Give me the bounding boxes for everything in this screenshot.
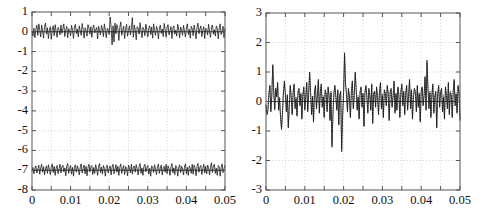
y-tick-label: -1 [252,124,262,137]
x-tick-label: 0 [12,194,52,207]
x-tick-label: 0 [246,194,286,207]
chart-panel-right: 3210-1-2-300.010.020.030.040.05 [241,0,483,219]
x-tick-label: 0.05 [205,194,245,207]
y-tick-label: -2 [252,154,262,167]
y-tick-label: -3 [18,84,28,97]
x-tick-label: 0.02 [324,194,364,207]
x-tick-label: 0.03 [362,194,402,207]
plot-area-right [241,0,483,219]
x-tick-label: 0.04 [166,194,206,207]
figure-root: 10-1-2-3-4-5-6-7-800.010.020.030.040.05 … [0,0,483,219]
x-tick-label: 0.05 [440,194,480,207]
y-tick-label: 1 [256,65,262,78]
y-tick-label: 2 [256,36,262,49]
y-tick-label: -2 [18,64,28,77]
y-tick-label: 3 [256,6,262,19]
y-tick-label: 0 [256,95,262,108]
x-tick-label: 0.02 [89,194,129,207]
y-tick-label: 1 [22,5,28,18]
x-tick-label: 0.01 [285,194,325,207]
y-tick-label: -7 [18,163,28,176]
x-tick-label: 0.03 [128,194,168,207]
plot-area-left [0,0,241,219]
chart-panel-left: 10-1-2-3-4-5-6-7-800.010.020.030.040.05 [0,0,241,219]
y-tick-label: -5 [18,124,28,137]
y-tick-label: -4 [18,104,28,117]
y-tick-label: -6 [18,143,28,156]
y-tick-label: -1 [18,45,28,58]
y-tick-label: 0 [22,25,28,38]
x-tick-label: 0.01 [51,194,91,207]
x-tick-label: 0.04 [401,194,441,207]
